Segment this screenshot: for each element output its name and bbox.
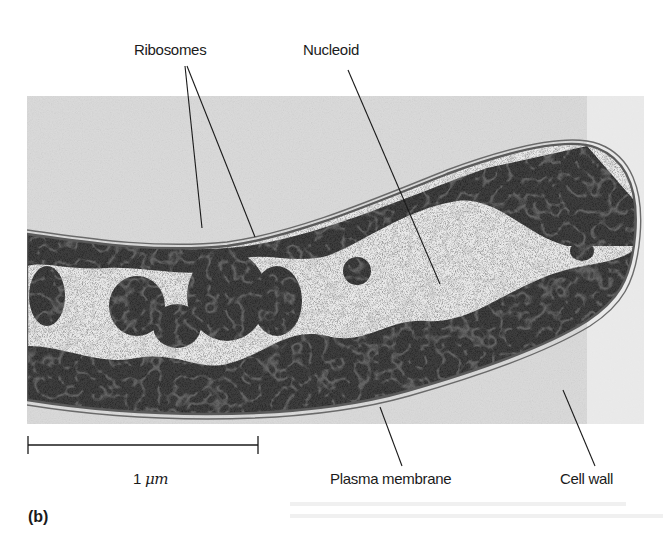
label-nucleoid: Nucleoid <box>303 41 359 58</box>
scale-bar-unit: μm <box>145 470 168 488</box>
label-ribosomes: Ribosomes <box>134 41 206 58</box>
scale-bar-value: 1 <box>133 470 141 487</box>
label-cell-wall: Cell wall <box>560 470 613 487</box>
panel-label: (b) <box>28 508 48 526</box>
electron-micrograph <box>27 96 644 424</box>
label-plasma-membrane: Plasma membrane <box>330 470 451 487</box>
scale-bar <box>28 436 258 454</box>
bacterial-cell-image <box>27 96 644 424</box>
bleed-through-text <box>290 498 663 533</box>
scale-bar-label: 1 μm <box>133 470 168 488</box>
